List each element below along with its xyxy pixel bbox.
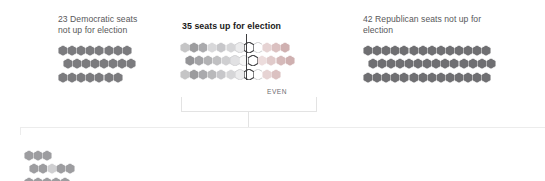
group-seats-up-label: 35 seats up for election [182, 21, 324, 32]
group-detail-cluster [24, 147, 94, 181]
hex-grid-democratic-not-up [58, 42, 170, 86]
group-republican-not-up-label: 42 Republican seats not up for election [363, 14, 513, 35]
senate-seat-hex-chart: 23 Democratic seats not up for election … [0, 0, 545, 181]
hex-grid-detail-cluster [24, 147, 94, 181]
bracket-horizontal [181, 111, 317, 112]
section-divider-line [20, 127, 545, 128]
section-divider-left-tick [20, 127, 21, 135]
group-seats-up-for-election: 35 seats up for election [180, 21, 322, 91]
hex-seat [113, 69, 123, 87]
hex-seat [60, 174, 70, 181]
bracket-right-stem [316, 97, 317, 112]
hex-grid-republican-not-up [363, 42, 523, 86]
hex-seat [126, 55, 136, 73]
bracket-left-stem [181, 97, 182, 112]
group-democratic-not-up-label: 23 Democratic seats not up for election [58, 14, 168, 35]
group-democratic-not-up: 23 Democratic seats not up for election [58, 14, 168, 86]
hex-seat [271, 66, 281, 84]
hex-seat-even-boundary [244, 66, 254, 84]
even-marker-label: EVEN [267, 88, 287, 95]
hex-seat [285, 52, 295, 70]
bracket-drop-line [248, 111, 249, 127]
group-republican-not-up: 42 Republican seats not up for election [363, 14, 523, 86]
hex-grid-seats-up [180, 39, 322, 85]
hex-seat [481, 69, 491, 87]
